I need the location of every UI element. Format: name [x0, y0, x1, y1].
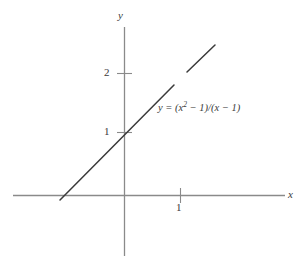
curve-segment-upper: [187, 45, 215, 72]
curve-equation-prefix: y = (x: [158, 102, 183, 113]
curve-equation-label: y = (x2 − 1)/(x − 1): [158, 103, 240, 114]
curve-equation-suffix: − 1)/(x − 1): [187, 102, 240, 113]
curve-segment-lower: [60, 85, 174, 200]
x-tick-label-1: 1: [176, 202, 182, 213]
y-tick-label-1: 1: [104, 126, 110, 137]
x-axis-label: x: [288, 189, 293, 200]
y-axis-label: y: [118, 10, 123, 21]
function-graph-figure: y x 1 2 1 y = (x2 − 1)/(x − 1): [0, 0, 303, 276]
plot-canvas: [0, 0, 303, 276]
y-tick-label-2: 2: [104, 67, 110, 78]
